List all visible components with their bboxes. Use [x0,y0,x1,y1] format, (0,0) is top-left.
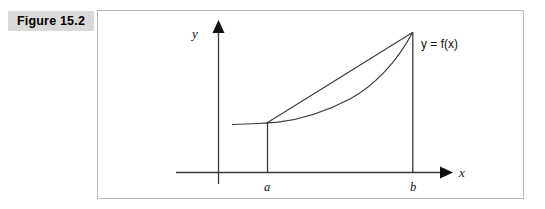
chord-line [266,33,413,124]
figure-screenshot: Figure 15.2 y x a b y = f(x) [0,0,545,209]
y-axis-arrowhead [213,20,225,33]
figure-graphic: y x a b y = f(x) [0,0,545,209]
x-axis-arrowhead [440,167,453,179]
x-axis-label: x [458,165,465,180]
lower-limit-label-a: a [264,180,270,194]
function-equation-label: y = f(x) [421,37,458,51]
upper-limit-label-b: b [410,180,416,194]
y-axis-label: y [190,26,198,41]
function-curve [232,33,413,125]
